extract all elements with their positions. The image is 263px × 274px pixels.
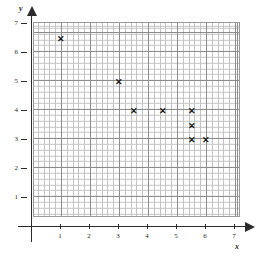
x-axis-tick — [205, 224, 206, 229]
data-point-marker: ✕ — [202, 136, 211, 145]
y-axis-tick — [21, 23, 27, 24]
x-axis-tick — [234, 224, 235, 229]
y-axis-label: y — [19, 5, 23, 13]
x-axis-tick-label: 4 — [145, 233, 149, 240]
data-point-marker: ✕ — [129, 107, 138, 116]
plot-area: ✕✕✕✕✕✕✕✕ — [33, 22, 240, 217]
y-axis-arrow-icon — [27, 6, 37, 16]
data-point-marker: ✕ — [187, 121, 196, 130]
y-axis-tick — [21, 139, 27, 140]
data-point-marker: ✕ — [158, 107, 167, 116]
x-axis-label: x — [235, 243, 239, 251]
major-gridlines — [34, 23, 239, 216]
data-point-marker: ✕ — [187, 107, 196, 116]
x-axis-tick — [89, 224, 90, 229]
y-axis-tick — [21, 52, 27, 53]
y-axis-line — [31, 14, 32, 242]
x-axis-tick-label: 6 — [203, 233, 207, 240]
data-point-marker: ✕ — [115, 78, 124, 87]
y-axis-tick — [21, 168, 27, 169]
y-axis-tick-label: 1 — [7, 194, 18, 201]
x-axis-tick-label: 3 — [116, 233, 120, 240]
minor-gridlines — [34, 23, 239, 216]
x-axis-tick — [176, 224, 177, 229]
y-axis-tick-label: 7 — [7, 20, 18, 27]
data-point-marker: ✕ — [57, 34, 66, 43]
x-axis-tick — [118, 224, 119, 229]
data-point-marker: ✕ — [187, 136, 196, 145]
y-axis-tick-label: 4 — [7, 107, 18, 114]
y-axis-tick — [21, 197, 27, 198]
x-axis-tick — [147, 224, 148, 229]
x-axis-tick-label: 7 — [232, 233, 236, 240]
y-axis-tick-label: 5 — [7, 78, 18, 85]
y-axis-tick — [21, 110, 27, 111]
scatter-plot-figure: ✕✕✕✕✕✕✕✕ 12345671234567 x y — [0, 0, 263, 274]
y-axis-tick-label: 3 — [7, 136, 18, 143]
y-axis-tick-label: 6 — [7, 49, 18, 56]
x-axis-tick-label: 1 — [58, 233, 62, 240]
y-axis-tick-label: 2 — [7, 165, 18, 172]
x-axis-tick — [60, 224, 61, 229]
x-axis-line — [18, 226, 247, 227]
x-axis-tick-label: 2 — [87, 233, 91, 240]
y-axis-tick — [21, 81, 27, 82]
x-axis-tick-label: 5 — [174, 233, 178, 240]
x-axis-arrow-icon — [245, 222, 255, 232]
